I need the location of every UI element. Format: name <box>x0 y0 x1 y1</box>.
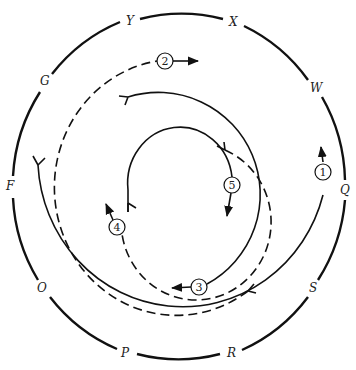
path-1-number: 1 <box>320 166 327 179</box>
label-s: S <box>309 281 317 295</box>
label-o: O <box>37 281 47 295</box>
label-y: Y <box>126 14 135 28</box>
label-f: F <box>5 179 15 193</box>
path-2-number: 2 <box>162 55 169 68</box>
path-3-number: 3 <box>196 281 203 294</box>
path-5-number: 5 <box>229 179 236 192</box>
label-x: X <box>228 15 238 29</box>
path-3: 3 <box>119 92 260 295</box>
path-5: 5 <box>128 127 240 216</box>
label-q: Q <box>340 183 350 197</box>
label-w: W <box>310 81 324 95</box>
y-tail-icon <box>128 203 136 212</box>
path-1: 1 <box>33 147 331 307</box>
y-tail-icon <box>119 96 128 105</box>
y-tail-icon <box>33 156 45 165</box>
path-4-number: 4 <box>114 221 121 234</box>
circular-path-diagram: Y X W Q S R P O F G 1 2 3 4 <box>0 0 356 370</box>
label-r: R <box>226 346 236 360</box>
label-p: P <box>120 346 130 360</box>
label-g: G <box>40 74 50 88</box>
